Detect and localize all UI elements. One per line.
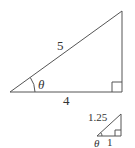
small-hypotenuse-label: 1.25	[88, 111, 108, 123]
small-triangle: 1.25 1 θ	[88, 111, 121, 148]
large-base-label: 4	[63, 93, 70, 108]
large-triangle-outline	[10, 11, 122, 92]
small-angle-arc	[101, 133, 102, 136]
small-base-label: 1	[107, 136, 113, 148]
large-triangle: 5 4 θ	[10, 11, 122, 108]
large-angle-arc	[30, 78, 35, 93]
small-angle-label: θ	[94, 137, 100, 148]
triangle-diagram: 5 4 θ 1.25 1 θ	[0, 0, 135, 148]
large-hypotenuse-label: 5	[57, 38, 64, 53]
large-right-angle-marker	[112, 82, 122, 92]
large-angle-label: θ	[38, 77, 45, 92]
small-right-angle-marker	[115, 130, 121, 136]
